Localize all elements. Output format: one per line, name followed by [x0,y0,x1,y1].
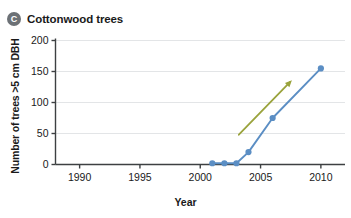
svg-text:200: 200 [31,34,49,46]
svg-text:2000: 2000 [189,171,213,183]
svg-text:50: 50 [37,127,49,139]
x-axis-ticks: 19901995200020052010 [68,165,333,183]
svg-text:150: 150 [31,65,49,77]
svg-text:1990: 1990 [68,171,92,183]
svg-text:2005: 2005 [249,171,273,183]
y-axis-ticks: 050100150200 [31,34,56,170]
axis-lines [56,39,346,165]
svg-text:100: 100 [31,96,49,108]
svg-text:2010: 2010 [309,171,333,183]
svg-text:1995: 1995 [128,171,152,183]
data-series [209,65,324,166]
svg-text:0: 0 [43,158,49,170]
plot-area: 050100150200 19901995200020052010 [0,0,351,218]
figure-panel-c: C Cottonwood trees Number of trees >5 cm… [0,0,351,218]
